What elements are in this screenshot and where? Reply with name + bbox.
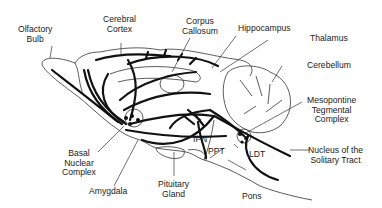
label-corpus-callosum: Corpus Callosum (182, 17, 218, 36)
label-pons: Pons (242, 192, 262, 202)
label-ppt: PPT (208, 147, 225, 157)
label-cerebral-cortex: Cerebral Cortex (103, 15, 136, 34)
label-thalamus: Thalamus (310, 34, 348, 44)
label-basal-nuclear-complex: Basal Nuclear Complex (62, 149, 96, 178)
label-pituitary-gland: Pituitary Gland (158, 180, 189, 199)
label-cerebellum: Cerebellum (307, 61, 351, 71)
label-olfactory-bulb: Olfactory Bulb (18, 25, 52, 44)
label-amygdala: Amygdala (89, 187, 127, 197)
label-nucleus-solitary-tract: Nucleus of the Solitary Tract (308, 146, 363, 165)
label-hippocampus: Hippocampus (238, 24, 291, 34)
label-mesopontine-tegmental-complex: Mesopontine Tegmental Complex (307, 96, 356, 125)
label-ldt: LDT (249, 150, 265, 160)
label-ipn: IPN (193, 135, 207, 145)
